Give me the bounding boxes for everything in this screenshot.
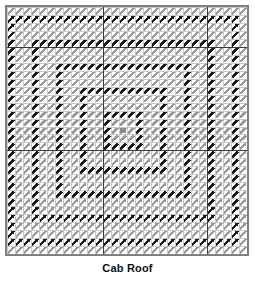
vector-field-grid — [7, 7, 247, 254]
plot-area — [7, 7, 247, 254]
plot-frame — [5, 5, 249, 256]
figure-cab-roof: Cab Roof — [0, 0, 255, 281]
figure-caption: Cab Roof — [0, 261, 255, 275]
